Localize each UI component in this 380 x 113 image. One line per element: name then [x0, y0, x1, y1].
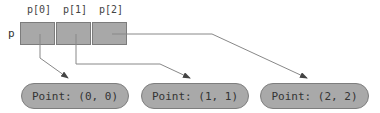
- point-node-0: Point: (0, 0): [21, 83, 129, 109]
- point-node-2: Point: (2, 2): [260, 83, 369, 109]
- pointer-array-diagram: p[0] p[1] p[2] p Point: (0, 0) Point: (1…: [0, 0, 380, 113]
- arrow-0: [40, 34, 68, 78]
- arrow-2: [112, 34, 307, 78]
- arrow-1: [76, 34, 190, 78]
- point-node-1: Point: (1, 1): [141, 83, 249, 109]
